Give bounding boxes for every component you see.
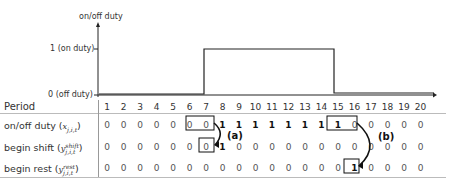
- annotation-overlay: [0, 0, 451, 188]
- annotation-a: (a): [227, 130, 243, 141]
- annotation-b: (b): [378, 131, 394, 142]
